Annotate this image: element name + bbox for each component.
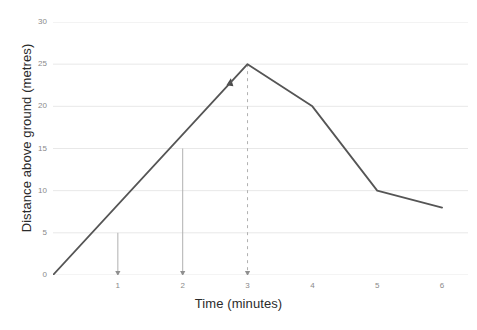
annotation-layer	[115, 64, 250, 275]
y-tick-label-30: 30	[25, 17, 47, 27]
drop-line-2-arrowhead	[180, 271, 185, 275]
y-tick-label-20: 20	[25, 101, 47, 111]
x-tick-label-1: 1	[107, 281, 129, 291]
x-tick-label-4: 4	[301, 281, 323, 291]
x-tick-label-5: 5	[366, 281, 388, 291]
y-tick-label-25: 25	[25, 59, 47, 69]
x-axis-title: Time (minutes)	[0, 296, 477, 311]
plot-area: 051015202530 123456	[53, 22, 468, 275]
y-tick-label-10: 10	[25, 186, 47, 196]
x-tick-label-2: 2	[172, 281, 194, 291]
gridlines	[53, 22, 468, 275]
y-tick-label-15: 15	[25, 144, 47, 154]
chart-svg	[53, 22, 468, 275]
x-tick-label-6: 6	[431, 281, 453, 291]
y-tick-label-0: 0	[25, 270, 47, 280]
x-tick-label-3: 3	[237, 281, 259, 291]
y-tick-label-5: 5	[25, 228, 47, 238]
drop-line-1-arrowhead	[115, 271, 120, 275]
chart-container: Distance above ground (metres) Time (min…	[0, 0, 477, 330]
drop-line-3-arrowhead	[245, 271, 250, 275]
